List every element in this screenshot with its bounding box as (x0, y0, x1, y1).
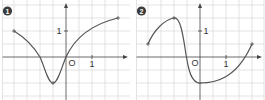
graph-1-svg: 1 1 1 O (2, 0, 131, 100)
y-tick-label: 1 (56, 26, 61, 36)
origin-label: O (68, 58, 75, 68)
graph-2-svg: 2 1 1 O (136, 0, 265, 100)
x-tick-label: 1 (89, 59, 94, 69)
graph-panel-2: 2 1 1 O (136, 0, 265, 100)
x-axis-arrow-icon (123, 55, 128, 59)
y-axis-arrow-icon (198, 3, 202, 8)
panel-badge-2-label: 2 (140, 8, 144, 15)
x-axis-arrow-icon (257, 55, 262, 59)
axes-1 (3, 6, 127, 100)
panel-badge-1-label: 1 (6, 8, 10, 15)
y-axis-arrow-icon (64, 3, 68, 8)
graph-panel-1: 1 1 1 O (2, 0, 131, 100)
axes-2 (137, 6, 261, 100)
origin-label: O (191, 58, 198, 68)
y-tick-label: 1 (203, 26, 208, 36)
x-tick-label: 1 (223, 59, 228, 69)
